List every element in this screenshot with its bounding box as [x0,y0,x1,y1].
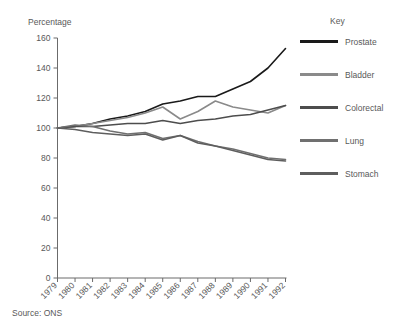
x-tick-label: 1983 [109,280,130,301]
x-tick-label: 1986 [161,280,182,301]
legend-item-stomach[interactable]: Stomach [300,168,398,179]
x-tick-label: 1981 [74,280,95,301]
legend-label-lung: Lung [345,136,364,146]
legend-swatch-colorectal [300,106,338,109]
legend-title: Key [330,16,398,26]
legend-swatch-prostate [300,40,338,43]
series-line-lung [58,125,286,160]
chart-legend: Key ProstateBladderColorectalLungStomach [300,16,398,201]
y-tick-label: 140 [36,63,50,73]
y-tick-label: 80 [41,153,51,163]
legend-item-lung[interactable]: Lung [300,135,398,146]
x-tick-label: 1985 [144,280,165,301]
legend-items: ProstateBladderColorectalLungStomach [300,36,398,179]
y-tick-label: 20 [41,243,51,253]
legend-item-bladder[interactable]: Bladder [300,69,398,80]
series-line-colorectal [58,106,286,129]
legend-swatch-lung [300,139,338,142]
legend-label-bladder: Bladder [345,70,374,80]
y-tick-label: 160 [36,33,50,43]
chart-figure: Percentage 02040608010012014016019791980… [0,0,401,331]
y-tick-label: 120 [36,93,50,103]
legend-item-prostate[interactable]: Prostate [300,36,398,47]
legend-label-colorectal: Colorectal [345,103,383,113]
x-tick-label: 1992 [266,280,287,301]
x-tick-label: 1984 [126,280,147,301]
x-tick-label: 1988 [196,280,217,301]
x-tick-label: 1987 [179,280,200,301]
x-tick-label: 1982 [91,280,112,301]
legend-label-prostate: Prostate [345,37,377,47]
legend-swatch-stomach [300,172,338,175]
source-note: Source: ONS [12,308,62,318]
x-tick-label: 1990 [231,280,252,301]
x-tick-label: 1991 [249,280,270,301]
x-tick-label: 1989 [214,280,235,301]
y-tick-label: 100 [36,123,50,133]
legend-item-colorectal[interactable]: Colorectal [300,102,398,113]
series-line-stomach [58,128,286,161]
y-tick-label: 60 [41,183,51,193]
chart-axes: 0204060801001201401601979198019811982198… [36,33,287,301]
x-tick-label: 1980 [56,280,77,301]
series-line-prostate [58,49,286,129]
y-tick-label: 40 [41,213,51,223]
legend-swatch-bladder [300,73,338,76]
x-tick-label: 1979 [38,280,59,301]
legend-label-stomach: Stomach [345,169,379,179]
chart-series [58,49,286,162]
